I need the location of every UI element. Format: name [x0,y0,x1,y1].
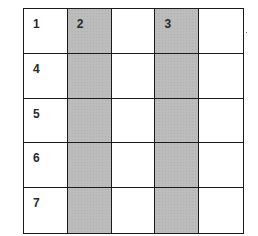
clue-number: 7 [33,196,40,210]
clue-number: 6 [33,151,40,165]
grid-cell-r2c1[interactable]: 4 [24,54,68,99]
grid-cell-r5c2[interactable] [68,188,112,233]
grid-cell-r2c4[interactable] [155,54,199,99]
grid-cell-r3c4[interactable] [155,99,199,144]
clue-number: 3 [164,17,171,31]
grid-cell-r1c3[interactable] [112,9,156,54]
clue-number: 5 [33,107,40,121]
grid-cell-r5c1[interactable]: 7 [24,188,68,233]
clue-number: 4 [33,62,40,76]
grid-cell-r2c3[interactable] [112,54,156,99]
grid-cell-r5c4[interactable] [155,188,199,233]
grid-cell-r2c2[interactable] [68,54,112,99]
grid-cell-r2c5[interactable] [199,54,243,99]
grid-cell-r5c5[interactable] [199,188,243,233]
grid-cell-r5c3[interactable] [112,188,156,233]
scan-artifact-dot [246,32,247,33]
grid-cell-r3c2[interactable] [68,99,112,144]
grid-cell-r1c1[interactable]: 1 [24,9,68,54]
grid-cell-r3c5[interactable] [199,99,243,144]
grid-cell-r1c4[interactable]: 3 [155,9,199,54]
grid-cell-r1c5[interactable] [199,9,243,54]
grid-cell-r4c4[interactable] [155,143,199,188]
grid-cell-r1c2[interactable]: 2 [68,9,112,54]
grid-cell-r4c5[interactable] [199,143,243,188]
clue-number: 1 [33,17,40,31]
grid-cell-r4c1[interactable]: 6 [24,143,68,188]
grid-cell-r4c3[interactable] [112,143,156,188]
crossword-grid: 1 2 3 4 5 6 7 [23,8,244,234]
clue-number: 2 [77,17,84,31]
grid-cell-r3c3[interactable] [112,99,156,144]
grid-cell-r3c1[interactable]: 5 [24,99,68,144]
grid-cell-r4c2[interactable] [68,143,112,188]
